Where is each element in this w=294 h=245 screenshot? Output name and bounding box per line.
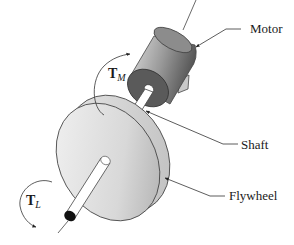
motor <box>120 22 196 114</box>
torque-load: TL <box>20 181 52 227</box>
motor-leader-line <box>196 29 241 47</box>
flywheel-leader-line <box>165 178 225 196</box>
motor-flywheel-diagram: TM TL Motor Shaft Flywheel <box>0 0 294 245</box>
shaft-label: Shaft <box>241 137 269 152</box>
torque-motor-label: TM <box>108 66 126 83</box>
flywheel-label: Flywheel <box>229 188 278 203</box>
motor-label: Motor <box>250 21 283 36</box>
shaft-top-line <box>183 0 196 30</box>
torque-load-label: TL <box>26 193 41 210</box>
shaft-axis-line <box>58 221 68 233</box>
